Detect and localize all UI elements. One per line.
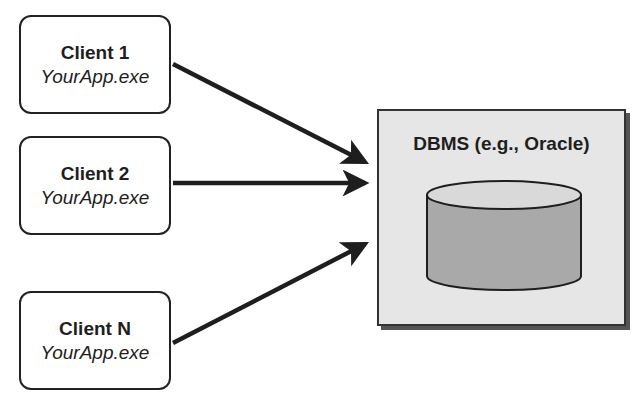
diagram-graphics — [0, 0, 642, 407]
database-cylinder-icon — [427, 181, 581, 290]
arrow-client-n-to-dbms — [173, 244, 365, 343]
arrow-client-1-to-dbms — [173, 64, 365, 162]
